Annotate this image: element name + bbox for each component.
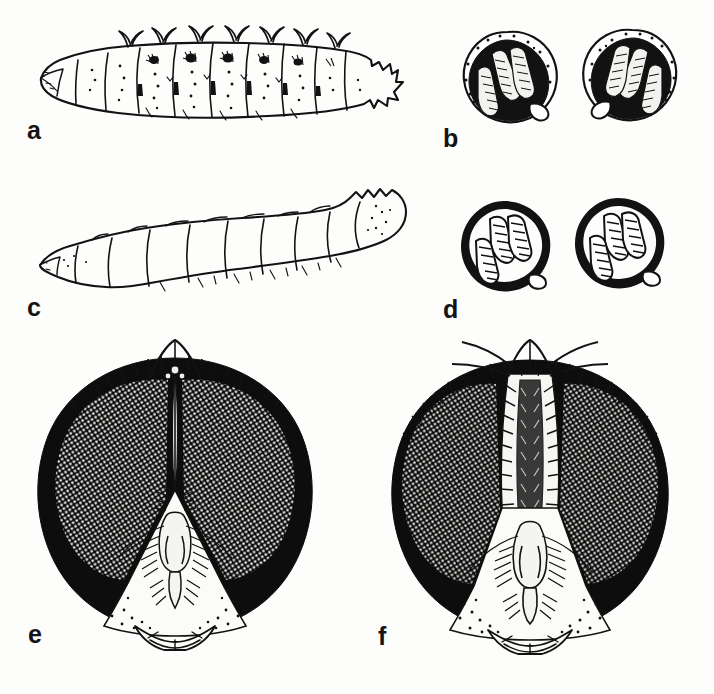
panel-c-larva-smooth: c bbox=[0, 170, 440, 340]
panel-label-d: d bbox=[443, 297, 458, 322]
panel-d-spiracles-open: d bbox=[440, 170, 714, 340]
panel-label-b: b bbox=[443, 126, 458, 151]
panel-b-spiracles-dark: b bbox=[440, 0, 714, 170]
figure-plate: a bbox=[0, 0, 714, 694]
panel-label-e: e bbox=[28, 622, 42, 647]
panel-label-f: f bbox=[378, 624, 386, 649]
panel-a-larva-spined: a bbox=[0, 0, 440, 170]
panel-e-head-male: e bbox=[0, 340, 360, 694]
panel-f-head-female: f bbox=[350, 340, 714, 694]
panel-label-c: c bbox=[27, 295, 41, 320]
panel-label-a: a bbox=[27, 118, 41, 143]
